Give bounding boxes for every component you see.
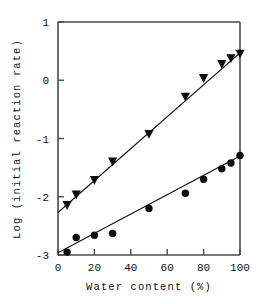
scatter-plot: 10-1-2-3 020406080100 Water content (%) …: [0, 0, 261, 304]
x-tick-label-0: 0: [55, 262, 62, 274]
x-tick-label-5: 100: [230, 262, 250, 274]
x-tick-label-3: 60: [161, 262, 174, 274]
data-point-circle-series-3: [109, 230, 116, 237]
y-tick-label-0: 1: [42, 17, 49, 29]
data-point-circle-series-0: [63, 248, 70, 255]
y-tick-label-4: -3: [36, 250, 49, 262]
data-point-circle-series-2: [91, 231, 98, 238]
y-axis-title: Log (initial reaction rate): [11, 39, 23, 239]
x-tick-label-4: 80: [197, 262, 210, 274]
data-point-circle-series-4: [145, 205, 152, 212]
x-axis-title: Water content (%): [86, 281, 212, 293]
data-point-circle-series-7: [218, 165, 225, 172]
y-tick-label-1: 0: [42, 75, 49, 87]
data-point-circle-series-9: [236, 152, 243, 159]
y-tick-label-3: -2: [36, 192, 49, 204]
y-tick-label-2: -1: [36, 134, 50, 146]
x-tick-label-1: 20: [88, 262, 101, 274]
data-point-circle-series-8: [227, 159, 234, 166]
data-point-circle-series-1: [73, 234, 80, 241]
x-tick-label-2: 40: [124, 262, 137, 274]
chart-figure: 10-1-2-3 020406080100 Water content (%) …: [0, 0, 261, 304]
data-point-circle-series-5: [182, 190, 189, 197]
data-point-circle-series-6: [200, 176, 207, 183]
